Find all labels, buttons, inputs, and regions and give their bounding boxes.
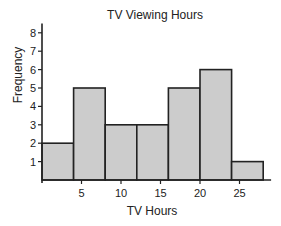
histogram-bar-7 — [232, 162, 264, 180]
x-tick-label-20: 20 — [194, 187, 206, 199]
histogram-bar-1 — [42, 143, 74, 180]
x-tick-label-10: 10 — [115, 187, 127, 199]
chart-canvas: TV Viewing Hours12345678510152025TV Hour… — [0, 0, 281, 226]
y-tick-label-7: 7 — [30, 45, 36, 57]
histogram-bar-3 — [105, 125, 137, 180]
y-tick-label-3: 3 — [30, 119, 36, 131]
y-axis-label: Frequency — [11, 47, 25, 104]
y-tick-label-4: 4 — [30, 100, 36, 112]
y-tick-label-5: 5 — [30, 82, 36, 94]
x-tick-label-15: 15 — [154, 187, 166, 199]
y-tick-label-2: 2 — [30, 137, 36, 149]
y-tick-label-1: 1 — [30, 156, 36, 168]
histogram-bar-5 — [168, 88, 200, 180]
histogram-chart: TV Viewing Hours12345678510152025TV Hour… — [0, 0, 281, 226]
x-tick-label-25: 25 — [233, 187, 245, 199]
y-tick-label-6: 6 — [30, 64, 36, 76]
histogram-bar-6 — [200, 70, 232, 180]
chart-title: TV Viewing Hours — [107, 8, 203, 22]
y-tick-label-8: 8 — [30, 27, 36, 39]
histogram-bar-2 — [74, 88, 106, 180]
x-tick-label-5: 5 — [78, 187, 84, 199]
x-axis-label: TV Hours — [127, 204, 178, 218]
histogram-bar-4 — [137, 125, 169, 180]
